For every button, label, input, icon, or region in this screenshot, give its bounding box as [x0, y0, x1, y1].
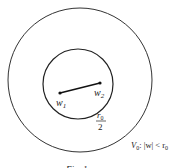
point-w2 — [98, 81, 101, 84]
label-w2: w2 — [94, 87, 105, 100]
point-w1 — [58, 91, 61, 94]
disc-diagram: w1 w2 r0 2 V0: |w| < r0 Fig. 1 — [0, 0, 182, 168]
svg-text:2: 2 — [98, 122, 103, 132]
label-w1: w1 — [56, 97, 66, 110]
inner-circle — [43, 49, 113, 119]
svg-text:r0: r0 — [97, 110, 104, 121]
region-label: V0: |w| < r0 — [131, 140, 168, 151]
outer-circle — [8, 8, 152, 152]
figure-caption: Fig. 1 — [65, 164, 88, 168]
radius-label: r0 2 — [96, 110, 106, 132]
